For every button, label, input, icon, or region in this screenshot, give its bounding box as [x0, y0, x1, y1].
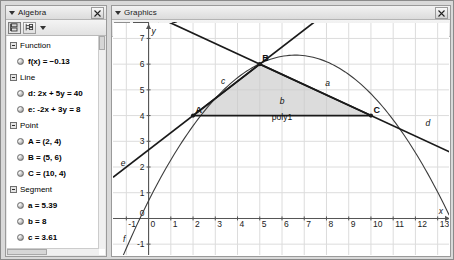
algebra-object-row[interactable]: f(x) = −0.13 [7, 53, 98, 69]
x-axis-label: x [438, 206, 444, 216]
polygon-label-poly1: poly1 [272, 112, 293, 122]
y-tick-label: -1 [137, 239, 145, 249]
collapse-box-icon[interactable] [10, 122, 17, 129]
point-B[interactable] [258, 62, 262, 66]
x-tick-label: 12 [417, 219, 427, 229]
algebra-scroll-thumb[interactable] [99, 36, 105, 50]
algebra-object-row[interactable]: e: -2x + 3y = 8 [7, 101, 98, 117]
visibility-toggle-icon[interactable] [17, 58, 24, 65]
geogebra-window: Algebra [0, 0, 454, 260]
algebra-object-label: b = 8 [28, 217, 46, 226]
algebra-object-label: A = (2, 4) [28, 137, 61, 146]
triangle-down-icon[interactable] [115, 11, 121, 15]
y-tick-label: 7 [140, 33, 145, 43]
x-tick-label: 0 [151, 219, 156, 229]
x-tick-label: 3 [217, 219, 222, 229]
x-tick-label: 4 [240, 219, 245, 229]
point-A[interactable] [191, 113, 195, 117]
algebra-panel-title: Algebra [18, 6, 46, 19]
point-label-B: B [262, 53, 269, 63]
x-tick-label: 2 [195, 219, 200, 229]
y-tick-label: 1 [140, 188, 145, 198]
collapse-box-icon[interactable] [10, 74, 17, 81]
visibility-toggle-icon[interactable] [17, 218, 24, 225]
algebra-panel-titlebar[interactable]: Algebra [6, 6, 106, 20]
algebra-panel: Algebra [5, 5, 107, 257]
close-icon [438, 10, 445, 17]
algebra-object-row[interactable]: a = 5.39 [7, 197, 98, 213]
visibility-toggle-icon[interactable] [17, 154, 24, 161]
visibility-toggle-icon[interactable] [17, 202, 24, 209]
algebra-group-label: Segment [20, 185, 52, 194]
algebra-object-row[interactable]: A = (2, 4) [7, 133, 98, 149]
x-tick-label: 13 [440, 219, 449, 229]
graphics-panel: Graphics -101234567891 [111, 5, 451, 257]
line-label-e: e [121, 158, 126, 168]
algebra-object-label: e: -2x + 3y = 8 [28, 105, 80, 114]
algebra-object-row[interactable]: d: 2x + 5y = 40 [7, 85, 98, 101]
algebra-object-row[interactable]: b = 8 [7, 213, 98, 229]
algebra-object-label: f(x) = −0.13 [28, 57, 70, 66]
x-tick-label: 7 [306, 219, 311, 229]
algebra-vertical-scrollbar[interactable] [98, 36, 105, 249]
graphics-panel-title: Graphics [124, 6, 157, 19]
algebra-hscroll-thumb[interactable] [7, 249, 47, 255]
x-tick-label: 5 [262, 219, 267, 229]
algebra-object-row[interactable]: B = (5, 6) [7, 149, 98, 165]
algebra-horizontal-scrollbar[interactable] [7, 248, 99, 255]
x-tick-label: 10 [373, 219, 383, 229]
visibility-toggle-icon[interactable] [17, 106, 24, 113]
algebra-group-row[interactable]: Segment [7, 181, 98, 197]
tree-view-button[interactable] [23, 22, 36, 34]
algebra-object-list[interactable]: Functionf(x) = −0.13Lined: 2x + 5y = 40e… [7, 36, 105, 255]
x-tick-label: 8 [328, 219, 333, 229]
algebra-close-button[interactable] [91, 7, 104, 19]
segment-label-c: c [221, 76, 226, 86]
line-label-d: d [425, 118, 430, 128]
collapse-box-icon[interactable] [10, 42, 17, 49]
x-tick-label: 6 [284, 219, 289, 229]
algebra-object-label: a = 5.39 [28, 201, 57, 210]
segment-label-a: a [325, 78, 330, 88]
segment-label-b: b [280, 96, 285, 106]
point-label-C: C [373, 105, 380, 115]
algebra-group-label: Point [20, 121, 38, 130]
visibility-toggle-icon[interactable] [17, 90, 24, 97]
graphics-close-button[interactable] [435, 7, 448, 19]
sort-objects-button[interactable] [8, 22, 21, 34]
x-tick-label: 11 [395, 219, 404, 229]
visibility-toggle-icon[interactable] [17, 170, 24, 177]
point-C[interactable] [369, 113, 373, 117]
x-tick-label: 9 [351, 219, 356, 229]
algebra-group-row[interactable]: Point [7, 117, 98, 133]
algebra-object-row[interactable]: C = (10, 4) [7, 165, 98, 181]
chevron-down-icon[interactable] [40, 26, 46, 30]
algebra-object-row[interactable]: c = 3.61 [7, 229, 98, 245]
algebra-group-label: Line [20, 73, 35, 82]
coordinate-plane: -1012345678910111213-101234567xyABCcabpo… [113, 23, 449, 255]
visibility-toggle-icon[interactable] [17, 234, 24, 241]
algebra-object-label: d: 2x + 5y = 40 [28, 89, 83, 98]
y-tick-label: 5 [140, 85, 145, 95]
y-tick-label: 2 [140, 162, 145, 172]
algebra-group-label: Function [20, 41, 51, 50]
y-axis-label: y [151, 26, 157, 36]
algebra-group-row[interactable]: Line [7, 69, 98, 85]
collapse-box-icon[interactable] [10, 186, 17, 193]
visibility-toggle-icon[interactable] [17, 138, 24, 145]
algebra-object-label: B = (5, 6) [28, 153, 62, 162]
algebra-rows: Functionf(x) = −0.13Lined: 2x + 5y = 40e… [7, 37, 98, 255]
algebra-object-label: C = (10, 4) [28, 169, 66, 178]
graphics-panel-titlebar[interactable]: Graphics [112, 6, 450, 20]
algebra-group-row[interactable]: Function [7, 37, 98, 53]
tree-view-icon [25, 23, 34, 32]
triangle-down-icon[interactable] [9, 11, 15, 15]
graphics-plot-area[interactable]: -1012345678910111213-101234567xyABCcabpo… [113, 23, 449, 255]
y-tick-label: 3 [140, 136, 145, 146]
y-tick-label: 6 [140, 59, 145, 69]
close-icon [94, 10, 101, 17]
algebra-toolbar [6, 20, 106, 36]
point-label-A: A [196, 105, 203, 115]
algebra-object-label: c = 3.61 [28, 233, 57, 242]
y-tick-label: 4 [140, 111, 145, 121]
